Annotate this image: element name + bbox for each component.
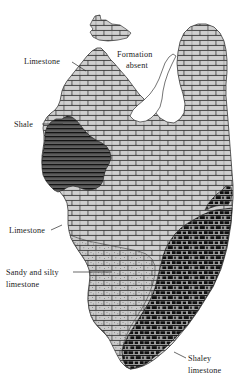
label-shaley-limestone: Shaley limestone bbox=[174, 352, 221, 375]
label-text-limestone-upper: Limestone bbox=[24, 57, 60, 66]
leader-line-limestone-lower bbox=[51, 225, 62, 230]
label-text-shaley-limestone-line1: Shaley bbox=[188, 354, 212, 363]
label-text-shale: Shale bbox=[14, 120, 33, 129]
label-limestone-lower: Limestone bbox=[9, 225, 62, 235]
leader-line-shaley-limestone bbox=[174, 352, 186, 358]
label-text-shaley-limestone-line2: limestone bbox=[188, 366, 221, 375]
label-text-sandy-and-silty-limestone-line1: Sandy and silty bbox=[6, 268, 59, 277]
label-text-sandy-and-silty-limestone-line2: limestone bbox=[6, 280, 39, 289]
label-formation-absent: Formation absent bbox=[117, 50, 152, 70]
formation-body bbox=[42, 24, 233, 369]
limestone-island-outlier bbox=[90, 15, 131, 41]
map-canvas: Limestone Formation absent Shale Limesto… bbox=[0, 0, 239, 388]
geologic-formation-map: Limestone Formation absent Shale Limesto… bbox=[0, 0, 239, 388]
label-text-formation-absent-line2: absent bbox=[126, 61, 148, 70]
label-text-formation-absent-line1: Formation bbox=[117, 50, 152, 59]
label-text-limestone-lower: Limestone bbox=[9, 226, 45, 235]
